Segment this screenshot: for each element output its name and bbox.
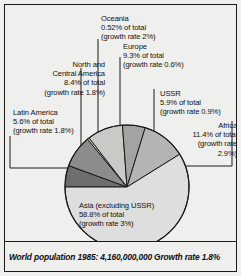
callout-oceania: Oceania 0.52% of total (growth rate 2%) bbox=[101, 14, 193, 42]
callout-africa: Africa 11.4% of total (growth rate 2.9%) bbox=[155, 121, 236, 158]
callout-latin-america: Latin America 5.6% of total (growth rate… bbox=[13, 108, 99, 136]
figure-container: North and Central America 8.4% of total … bbox=[0, 0, 241, 276]
callout-north-central-america: North and Central America 8.4% of total … bbox=[23, 60, 105, 97]
callout-ussr: USSR 5.9% of total (growth rate 0.9%) bbox=[160, 89, 236, 117]
callout-europe: Europe 9.3% of total (growth rate 0.6%) bbox=[123, 42, 211, 70]
caption-text: World population 1985: 4,160,000,000 Gro… bbox=[9, 252, 220, 262]
caption-bar: World population 1985: 4,160,000,000 Gro… bbox=[5, 243, 236, 271]
chart-area: North and Central America 8.4% of total … bbox=[5, 5, 236, 242]
callout-asia: Asia (excluding USSR) 58.8% of total (gr… bbox=[79, 201, 187, 229]
